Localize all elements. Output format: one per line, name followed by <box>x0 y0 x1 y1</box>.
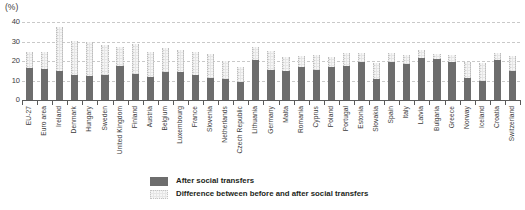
legend-item: Difference between before and after soci… <box>150 189 480 199</box>
x-tick <box>429 100 430 105</box>
bar-segment-difference <box>177 50 184 71</box>
bar-segment-difference <box>86 42 93 76</box>
x-tick <box>263 100 264 105</box>
bar-segment-after-social-transfers <box>132 74 139 100</box>
bar-segment-difference <box>71 41 78 75</box>
x-category-label: Romania <box>298 106 305 133</box>
legend-label: After social transfers <box>176 177 254 185</box>
bar-segment-after-social-transfers <box>267 70 274 100</box>
x-category-label: Cyprus <box>313 106 320 128</box>
x-tick <box>82 100 83 105</box>
x-category-label: EU-27 <box>26 106 33 125</box>
x-category-label: France <box>192 106 199 127</box>
legend-swatch-after <box>150 177 168 186</box>
bar-segment-difference <box>222 61 229 79</box>
y-axis-tick-labels: 010203040 <box>0 22 20 100</box>
x-category-label: Slovenia <box>207 106 214 132</box>
bar-segment-difference <box>252 47 259 60</box>
x-category-label: Latvia <box>418 106 425 124</box>
y-tick-label: 0 <box>16 96 20 104</box>
x-tick <box>309 100 310 105</box>
unit-label: (%) <box>5 2 18 12</box>
bar-segment-after-social-transfers <box>403 64 410 100</box>
x-category-label: Iceland <box>479 106 486 128</box>
x-tick <box>475 100 476 105</box>
bar-segment-difference <box>237 67 244 83</box>
x-tick <box>67 100 68 105</box>
x-category-label: Sweden <box>102 106 109 130</box>
x-category-label: Bulgaria <box>434 106 441 131</box>
bar-group <box>177 22 184 100</box>
bar-segment-after-social-transfers <box>464 78 471 100</box>
bar-group <box>282 22 289 100</box>
bar-segment-after-social-transfers <box>252 60 259 100</box>
x-tick <box>37 100 38 105</box>
x-category-label: Estonia <box>358 106 365 129</box>
bar-group <box>433 22 440 100</box>
legend-swatch-diff <box>150 190 168 199</box>
x-tick <box>22 100 23 105</box>
x-category-label: Croatia <box>494 106 501 128</box>
x-category-label: Finland <box>132 106 139 128</box>
bar-segment-after-social-transfers <box>26 68 33 100</box>
bar-segment-difference <box>509 56 516 71</box>
bar-group <box>403 22 410 100</box>
bar-segment-after-social-transfers <box>41 69 48 100</box>
x-tick <box>505 100 506 105</box>
chart-legend: After social transfersDifference between… <box>150 176 480 202</box>
x-category-label: United Kingdom <box>117 106 124 154</box>
bar-segment-difference <box>207 54 214 77</box>
bar-group <box>86 22 93 100</box>
bar-segment-after-social-transfers <box>373 79 380 100</box>
bar-segment-difference <box>343 53 350 66</box>
bar-group <box>116 22 123 100</box>
x-tick <box>294 100 295 105</box>
poverty-rate-chart: (%) 010203040 EU-27Euro areaIrelandDenma… <box>0 0 525 210</box>
x-category-label: Malta <box>283 106 290 123</box>
bar-group <box>252 22 259 100</box>
bar-segment-after-social-transfers <box>56 71 63 100</box>
bar-segment-after-social-transfers <box>358 62 365 100</box>
bar-group <box>26 22 33 100</box>
x-category-label: Netherlands <box>222 106 229 143</box>
bar-group <box>313 22 320 100</box>
bar-segment-after-social-transfers <box>509 71 516 100</box>
x-tick <box>399 100 400 105</box>
bar-segment-after-social-transfers <box>71 75 78 100</box>
bar-segment-after-social-transfers <box>101 75 108 100</box>
x-tick <box>188 100 189 105</box>
bar-segment-difference <box>147 52 154 76</box>
bar-segment-difference <box>267 51 274 70</box>
x-tick <box>445 100 446 105</box>
x-tick <box>279 100 280 105</box>
bar-segment-difference <box>56 27 63 71</box>
x-tick <box>233 100 234 105</box>
bar-group <box>101 22 108 100</box>
bar-segment-difference <box>403 55 410 64</box>
bar-segment-after-social-transfers <box>86 76 93 100</box>
bar-group <box>41 22 48 100</box>
bar-segment-difference <box>132 44 139 73</box>
bar-segment-after-social-transfers <box>116 66 123 100</box>
plot-area <box>22 22 520 100</box>
bar-series-container <box>22 22 520 100</box>
x-tick <box>384 100 385 105</box>
bar-segment-difference <box>101 45 108 74</box>
legend-label: Difference between before and after soci… <box>176 190 368 198</box>
x-axis-category-labels: EU-27Euro areaIrelandDenmarkHungarySwede… <box>22 106 520 162</box>
x-tick <box>339 100 340 105</box>
x-tick <box>369 100 370 105</box>
bar-segment-after-social-transfers <box>162 72 169 100</box>
bar-segment-difference <box>358 53 365 62</box>
x-category-label: Portugal <box>343 106 350 131</box>
x-category-label: Italy <box>403 106 410 119</box>
bar-group <box>464 22 471 100</box>
bar-segment-difference <box>26 52 33 68</box>
bar-segment-after-social-transfers <box>298 67 305 100</box>
x-category-label: Spain <box>388 106 395 123</box>
x-category-label: Luxembourg <box>177 106 184 144</box>
x-tick <box>97 100 98 105</box>
bar-group <box>418 22 425 100</box>
bar-segment-after-social-transfers <box>313 70 320 100</box>
bar-segment-difference <box>433 54 440 59</box>
